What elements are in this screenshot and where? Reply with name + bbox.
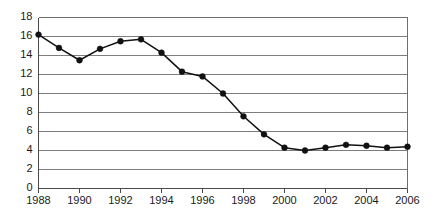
x-tick-label-1990: 1990 xyxy=(67,194,91,206)
x-tick-label-1996: 1996 xyxy=(190,194,214,206)
data-point-2004 xyxy=(364,143,370,149)
data-point-2000 xyxy=(282,145,288,151)
y-tick-label-16: 16 xyxy=(20,29,32,41)
data-point-1993 xyxy=(138,36,144,42)
x-tick-label-2006: 2006 xyxy=(395,194,419,206)
y-tick-label-0: 0 xyxy=(26,181,32,193)
x-tick-label-2004: 2004 xyxy=(354,194,378,206)
data-point-2001 xyxy=(302,148,308,154)
chart-background xyxy=(0,0,433,220)
x-tick-label-2002: 2002 xyxy=(313,194,337,206)
chart-canvas: 024681012141618 198819901992199419961998… xyxy=(0,0,433,220)
y-tick-label-8: 8 xyxy=(26,105,32,117)
data-point-2006 xyxy=(405,144,411,150)
y-tick-label-14: 14 xyxy=(20,48,32,60)
data-point-1998 xyxy=(241,113,247,119)
x-tick-label-1992: 1992 xyxy=(108,194,132,206)
x-tick-label-2000: 2000 xyxy=(272,194,296,206)
y-tick-label-12: 12 xyxy=(20,67,32,79)
data-point-2003 xyxy=(343,142,349,148)
data-point-1997 xyxy=(220,91,226,97)
data-point-1991 xyxy=(97,46,103,52)
data-point-1994 xyxy=(159,50,165,56)
y-tick-label-4: 4 xyxy=(26,143,32,155)
data-point-1992 xyxy=(118,38,124,44)
data-point-2002 xyxy=(323,145,329,151)
data-point-1995 xyxy=(179,69,185,75)
x-tick-label-1994: 1994 xyxy=(149,194,173,206)
data-point-1990 xyxy=(77,57,83,63)
data-point-1996 xyxy=(200,74,206,80)
y-tick-label-2: 2 xyxy=(26,162,32,174)
y-tick-label-6: 6 xyxy=(26,124,32,136)
y-tick-label-18: 18 xyxy=(20,10,32,22)
x-tick-label-1998: 1998 xyxy=(231,194,255,206)
y-tick-label-10: 10 xyxy=(20,86,32,98)
data-point-1999 xyxy=(261,131,267,137)
data-point-1989 xyxy=(56,45,62,51)
data-point-2005 xyxy=(384,145,390,151)
line-chart-figure: 024681012141618 198819901992199419961998… xyxy=(0,0,433,220)
x-tick-label-1988: 1988 xyxy=(26,194,50,206)
data-point-1988 xyxy=(36,32,42,38)
